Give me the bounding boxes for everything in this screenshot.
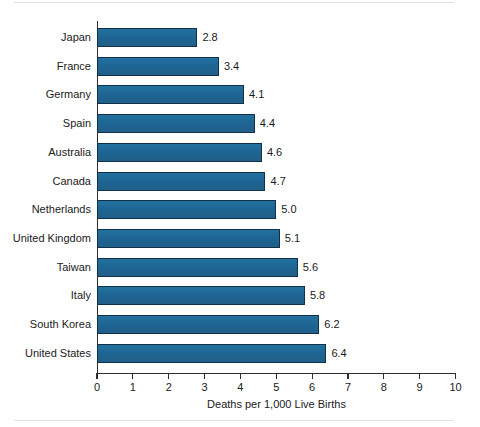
bar-value-label-united-kingdom: 5.1: [285, 231, 300, 245]
bar-row: Italy5.8: [0, 286, 480, 305]
category-label-united-states: United States: [25, 346, 91, 360]
bar-value-label-united-states: 6.4: [331, 346, 346, 360]
bar-row: Netherlands5.0: [0, 200, 480, 219]
x-tick-6: [312, 373, 313, 379]
bar-spain: [97, 114, 255, 133]
bar-united-states: [97, 344, 326, 363]
bar-row: Germany4.1: [0, 85, 480, 104]
category-label-spain: Spain: [63, 116, 91, 130]
bar-united-kingdom: [97, 229, 280, 248]
x-tick-label-2: 2: [154, 381, 184, 394]
bar-fill: [98, 58, 218, 75]
bar-france: [97, 57, 219, 76]
bar-chart: 012345678910 Japan2.8France3.4Germany4.1…: [0, 0, 480, 427]
x-tick-label-8: 8: [369, 381, 399, 394]
bar-fill: [98, 115, 254, 132]
bar-row: Spain4.4: [0, 114, 480, 133]
bar-japan: [97, 28, 197, 47]
category-label-japan: Japan: [61, 30, 91, 44]
bar-fill: [98, 316, 318, 333]
category-label-netherlands: Netherlands: [32, 202, 91, 216]
category-label-australia: Australia: [48, 145, 91, 159]
x-tick-label-3: 3: [190, 381, 220, 394]
bar-canada: [97, 172, 265, 191]
bar-fill: [98, 345, 325, 362]
bar-row: United Kingdom5.1: [0, 229, 480, 248]
bar-value-label-taiwan: 5.6: [303, 260, 318, 274]
plot-area: 012345678910 Japan2.8France3.4Germany4.1…: [0, 0, 480, 427]
x-tick-10: [455, 373, 456, 379]
bar-value-label-south-korea: 6.2: [324, 317, 339, 331]
bar-australia: [97, 143, 262, 162]
bar-value-label-spain: 4.4: [260, 116, 275, 130]
x-tick-0: [96, 373, 97, 379]
bar-value-label-australia: 4.6: [267, 145, 282, 159]
bar-row: United States6.4: [0, 344, 480, 363]
x-tick-label-5: 5: [261, 381, 291, 394]
bar-fill: [98, 230, 279, 247]
x-tick-label-4: 4: [225, 381, 255, 394]
category-label-germany: Germany: [46, 87, 91, 101]
x-tick-9: [419, 373, 420, 379]
bar-row: Japan2.8: [0, 28, 480, 47]
category-label-south-korea: South Korea: [30, 317, 91, 331]
bar-row: France3.4: [0, 57, 480, 76]
bar-row: Australia4.6: [0, 143, 480, 162]
bar-south-korea: [97, 315, 319, 334]
bar-fill: [98, 173, 264, 190]
bar-value-label-germany: 4.1: [249, 87, 264, 101]
x-tick-4: [240, 373, 241, 379]
x-tick-label-1: 1: [118, 381, 148, 394]
category-label-italy: Italy: [71, 288, 91, 302]
category-label-united-kingdom: United Kingdom: [13, 231, 91, 245]
bar-germany: [97, 85, 244, 104]
bar-fill: [98, 29, 196, 46]
category-label-taiwan: Taiwan: [57, 260, 91, 274]
x-axis-title: Deaths per 1,000 Live Births: [97, 397, 456, 411]
x-tick-1: [132, 373, 133, 379]
bar-value-label-netherlands: 5.0: [281, 202, 296, 216]
bar-fill: [98, 86, 243, 103]
x-tick-label-0: 0: [82, 381, 112, 394]
bar-value-label-japan: 2.8: [202, 30, 217, 44]
x-tick-label-7: 7: [333, 381, 363, 394]
bar-value-label-france: 3.4: [224, 59, 239, 73]
bar-fill: [98, 144, 261, 161]
bar-row: Canada4.7: [0, 172, 480, 191]
x-tick-5: [276, 373, 277, 379]
x-tick-2: [168, 373, 169, 379]
bar-fill: [98, 259, 297, 276]
category-label-france: France: [57, 59, 91, 73]
bar-fill: [98, 287, 304, 304]
bar-netherlands: [97, 200, 276, 219]
x-tick-label-9: 9: [405, 381, 435, 394]
bar-row: South Korea6.2: [0, 315, 480, 334]
x-tick-7: [347, 373, 348, 379]
x-tick-3: [204, 373, 205, 379]
x-tick-label-6: 6: [297, 381, 327, 394]
bar-value-label-italy: 5.8: [310, 288, 325, 302]
bar-value-label-canada: 4.7: [270, 174, 285, 188]
bar-taiwan: [97, 258, 298, 277]
x-tick-label-10: 10: [441, 381, 471, 394]
bar-fill: [98, 201, 275, 218]
category-label-canada: Canada: [52, 174, 91, 188]
bar-italy: [97, 286, 305, 305]
bar-row: Taiwan5.6: [0, 258, 480, 277]
x-tick-8: [383, 373, 384, 379]
